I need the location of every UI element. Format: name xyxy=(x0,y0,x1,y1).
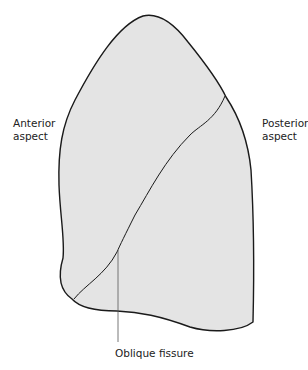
anterior-label-line1: Anterior xyxy=(13,117,63,130)
oblique-fissure-label: Oblique fissure xyxy=(115,347,194,360)
anterior-label-line2: aspect xyxy=(13,130,63,143)
anterior-aspect-label: Anterior aspect xyxy=(13,117,63,143)
posterior-label-line1: Posterior xyxy=(262,117,308,130)
lung-outline xyxy=(59,15,254,330)
posterior-aspect-label: Posterior aspect xyxy=(262,117,308,143)
lung-diagram xyxy=(0,0,308,370)
posterior-label-line2: aspect xyxy=(262,130,308,143)
